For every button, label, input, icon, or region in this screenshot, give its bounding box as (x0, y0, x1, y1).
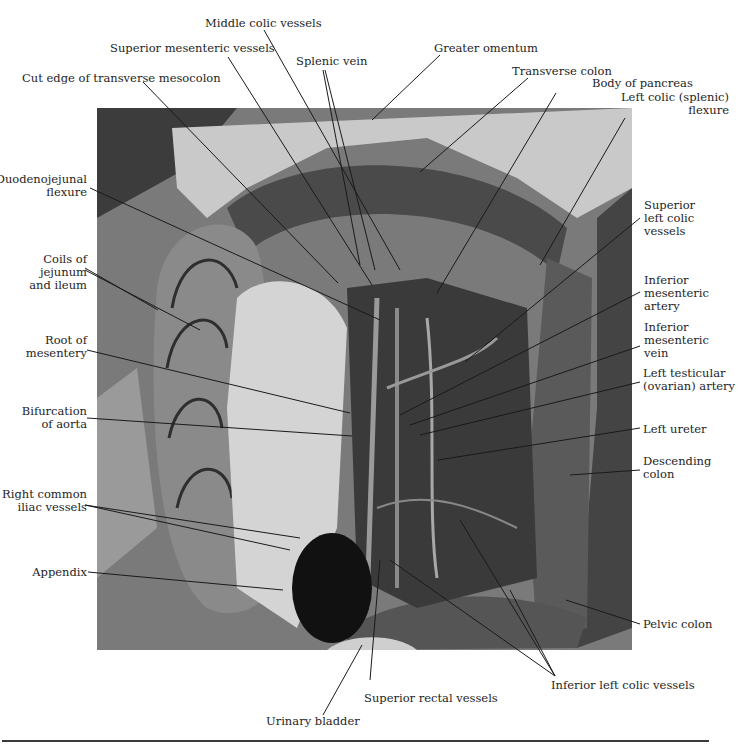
label-inferior-mesenteric-artery: Inferior mesenteric artery (644, 274, 709, 313)
label-superior-rectal-vessels: Superior rectal vessels (364, 692, 498, 705)
label-left-testicular-artery: Left testicular (ovarian) artery (643, 367, 735, 393)
label-pelvic-colon: Pelvic colon (643, 618, 712, 631)
label-inferior-mesenteric-vein: Inferior mesenteric vein (644, 321, 709, 360)
label-superior-left-colic-vessels: Superior left colic vessels (644, 199, 695, 238)
illustration-drawing (97, 108, 632, 650)
label-appendix: Appendix (32, 566, 87, 579)
label-cut-edge-transverse-mesocolon: Cut edge of transverse mesocolon (22, 72, 221, 85)
label-urinary-bladder: Urinary bladder (266, 715, 360, 728)
label-duodenojejunal-flexure: Duodenojejunal flexure (0, 173, 87, 199)
label-right-common-iliac-vessels: Right common iliac vessels (2, 488, 87, 514)
label-root-of-mesentery: Root of mesentery (26, 334, 87, 360)
label-inferior-left-colic-vessels: Inferior left colic vessels (551, 679, 695, 692)
label-left-ureter: Left ureter (643, 423, 707, 436)
label-greater-omentum: Greater omentum (434, 42, 538, 55)
label-left-colic-flexure: Left colic (splenic) flexure (621, 91, 729, 117)
label-coils-jejunum-ileum: Coils of jejunum and ileum (29, 253, 87, 292)
bottom-rule (2, 740, 709, 742)
label-descending-colon: Descending colon (643, 455, 711, 481)
label-body-of-pancreas: Body of pancreas (592, 77, 693, 90)
label-middle-colic-vessels: Middle colic vessels (205, 17, 322, 30)
anatomical-illustration (97, 108, 632, 650)
label-bifurcation-of-aorta: Bifurcation of aorta (22, 405, 87, 431)
label-splenic-vein: Splenic vein (296, 55, 367, 68)
label-superior-mesenteric-vessels: Superior mesenteric vessels (110, 42, 275, 55)
